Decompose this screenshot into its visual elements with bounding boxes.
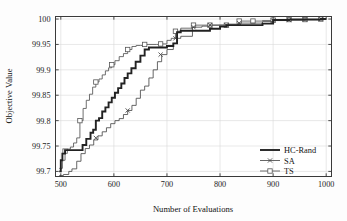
y-tick-label: 99.95	[32, 40, 50, 49]
x-tick-label: 1000	[318, 180, 334, 189]
x-axis-title: Number of Evaluations	[153, 204, 234, 214]
x-tick-label: 900	[267, 180, 279, 189]
x-tick-label: 700	[161, 180, 173, 189]
y-tick-label: 99.7	[36, 167, 50, 176]
objective-value-line-chart: 5006007008009001000 99.799.7599.899.8599…	[0, 0, 347, 221]
chart-figure: 5006007008009001000 99.799.7599.899.8599…	[0, 0, 347, 221]
y-tick-label: 99.85	[32, 91, 50, 100]
marker-square	[78, 118, 82, 122]
marker-square	[125, 47, 129, 51]
legend-label: TS	[284, 167, 294, 176]
x-tick-label: 500	[55, 180, 67, 189]
marker-square	[94, 80, 98, 84]
x-tick-label: 800	[214, 180, 226, 189]
x-axis-tick-labels: 5006007008009001000	[55, 180, 335, 189]
y-axis-tick-labels: 99.799.7599.899.8599.999.95100	[32, 15, 50, 176]
legend-label: HC-Rand	[284, 146, 317, 155]
marker-square	[110, 63, 114, 67]
y-tick-label: 99.75	[32, 142, 50, 151]
marker-square	[251, 19, 255, 23]
legend-marker-square	[268, 169, 272, 173]
x-tick-label: 600	[108, 180, 120, 189]
y-tick-label: 100	[38, 15, 50, 24]
y-axis-title: Objective Value	[4, 68, 14, 123]
marker-square	[158, 42, 162, 46]
y-tick-label: 99.9	[36, 66, 50, 75]
marker-square	[142, 42, 146, 46]
legend-label: SA	[284, 157, 295, 166]
y-tick-label: 99.8	[36, 117, 50, 126]
